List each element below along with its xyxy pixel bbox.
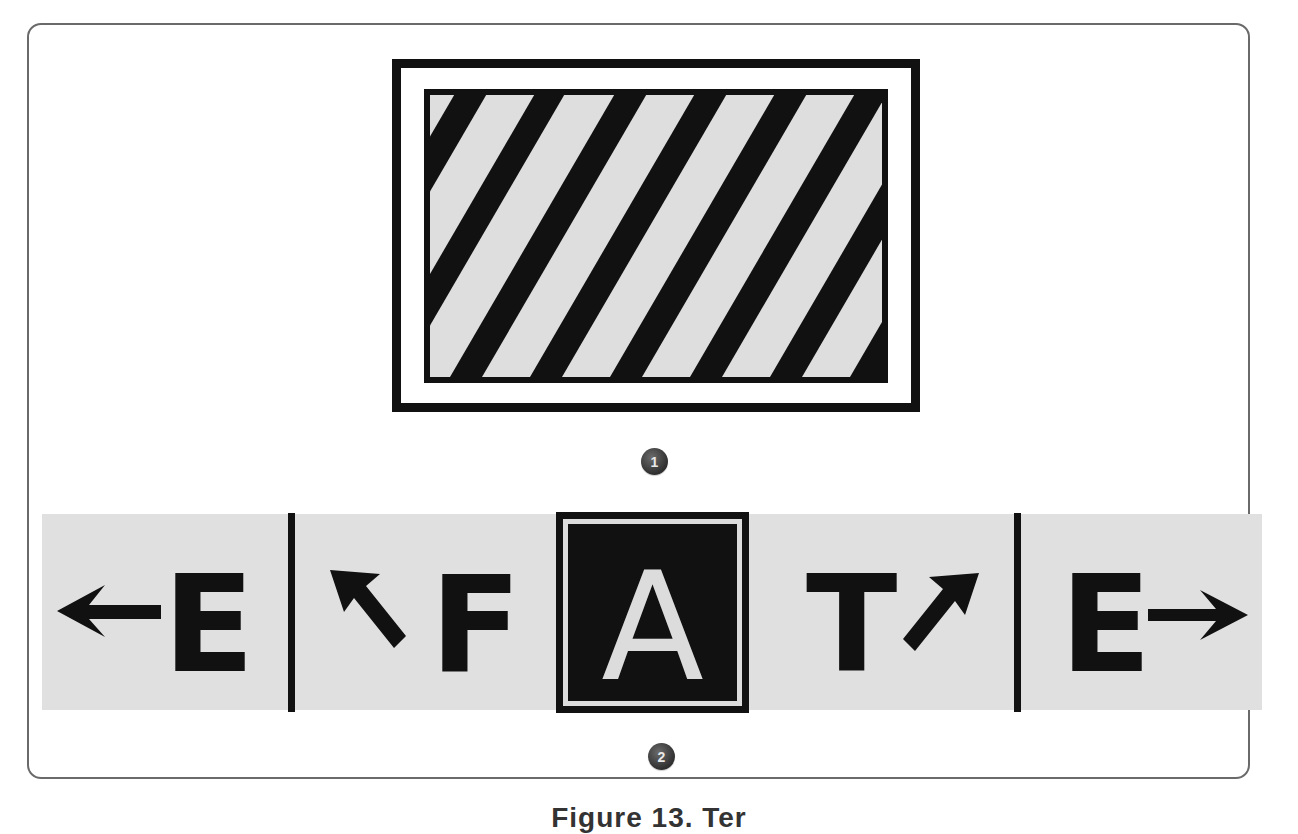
- arrow-left-icon: [57, 585, 162, 637]
- center-sign-a: A: [556, 512, 749, 713]
- sign-divider: [1014, 513, 1021, 712]
- arrow-right-icon: [1148, 590, 1248, 640]
- sign-letter-e-right: E: [1060, 558, 1152, 692]
- diagonal-hatching-icon: [430, 95, 882, 377]
- sign-letter-f: F: [430, 558, 522, 692]
- hatched-sign: [424, 89, 888, 383]
- sign-letter-e-left: E: [163, 558, 255, 692]
- marker-2: 2: [648, 743, 675, 770]
- arrow-up-right-icon: [903, 573, 983, 653]
- sign-letter-a: A: [556, 552, 749, 702]
- marker-1: 1: [641, 448, 668, 475]
- sign-divider: [288, 513, 295, 712]
- sign-letter-t: T: [806, 558, 897, 692]
- arrow-up-left-icon: [330, 570, 410, 650]
- figure-caption: Figure 13. Ter: [0, 802, 1298, 834]
